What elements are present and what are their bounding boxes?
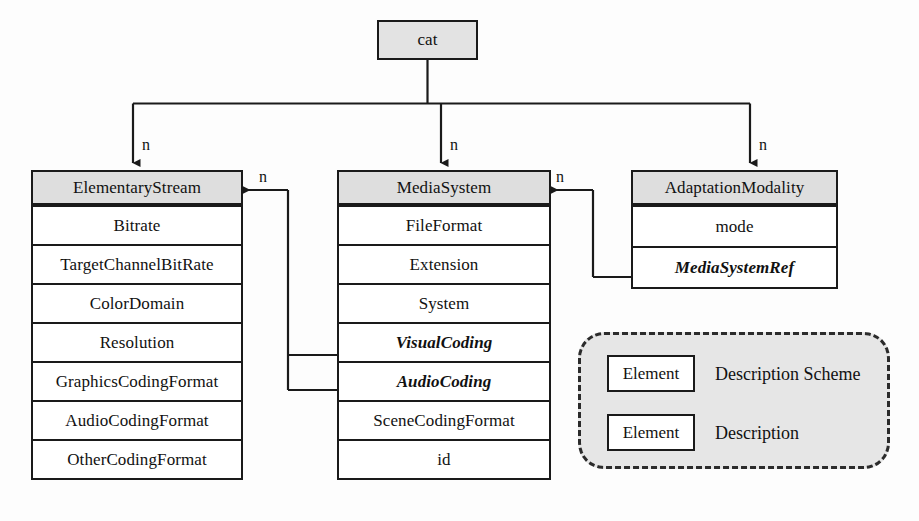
attribute-row: Extension (339, 244, 549, 283)
attribute-row: Bitrate (33, 205, 241, 244)
class-box-adaptation-modality[interactable]: AdaptationModality mode MediaSystemRef (631, 170, 838, 289)
multiplicity-label-media-system: n (450, 136, 458, 154)
attribute-row: GraphicsCodingFormat (33, 361, 241, 400)
attribute-row: mode (633, 205, 836, 246)
multiplicity-label-mediasystem-to-elementarystream: n (259, 168, 267, 186)
attribute-row: id (339, 439, 549, 478)
legend-swatch-description: Element (607, 414, 695, 451)
diagram-canvas: cat ElementaryStream Bitrate TargetChann… (0, 0, 919, 521)
attribute-row: SceneCodingFormat (339, 400, 549, 439)
legend-label-description: Description (715, 423, 799, 444)
root-class-cat[interactable]: cat (377, 20, 478, 60)
root-class-label: cat (418, 30, 438, 50)
attribute-row: VisualCoding (339, 322, 549, 361)
multiplicity-label-elementary-stream: n (142, 136, 150, 154)
attribute-row: AudioCoding (339, 361, 549, 400)
attribute-row: FileFormat (339, 205, 549, 244)
attribute-row: System (339, 283, 549, 322)
attribute-row: Resolution (33, 322, 241, 361)
attribute-row: AudioCodingFormat (33, 400, 241, 439)
attribute-row: OtherCodingFormat (33, 439, 241, 478)
legend-label-description-scheme: Description Scheme (715, 364, 860, 385)
multiplicity-label-adaptation-modality: n (759, 136, 767, 154)
class-header-media-system: MediaSystem (339, 172, 549, 205)
class-box-elementary-stream[interactable]: ElementaryStream Bitrate TargetChannelBi… (31, 170, 243, 480)
legend-swatch-label: Element (623, 364, 680, 384)
wire-adaptationmodality-to-mediasystem (551, 190, 631, 277)
legend-swatch-label: Element (623, 423, 680, 443)
class-header-elementary-stream: ElementaryStream (33, 172, 241, 205)
wire-mediasystem-to-elementarystream (243, 190, 337, 390)
multiplicity-label-adaptationmodality-to-mediasystem: n (556, 168, 564, 186)
attribute-row: ColorDomain (33, 283, 241, 322)
class-header-adaptation-modality: AdaptationModality (633, 172, 836, 205)
class-box-media-system[interactable]: MediaSystem FileFormat Extension System … (337, 170, 551, 480)
legend-swatch-description-scheme: Element (607, 355, 695, 392)
attribute-row: MediaSystemRef (633, 246, 836, 287)
attribute-row: TargetChannelBitRate (33, 244, 241, 283)
